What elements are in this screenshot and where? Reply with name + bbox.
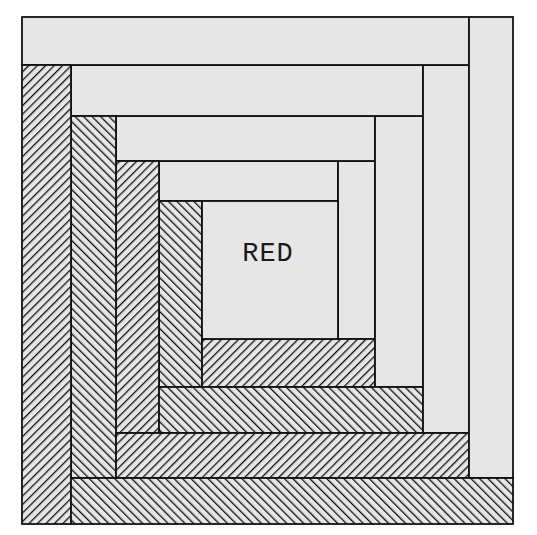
log-light-top-1 — [159, 161, 338, 201]
center-square — [202, 201, 338, 339]
center-label: RED — [242, 239, 294, 269]
log-dark-bottom-2 — [159, 387, 423, 433]
log-dark-left-1 — [159, 201, 202, 387]
log-dark-bottom-1 — [202, 339, 375, 387]
log-light-right-4 — [469, 17, 513, 478]
log-dark-left-4 — [22, 65, 71, 524]
log-light-right-3 — [423, 65, 469, 433]
log-light-top-4 — [22, 17, 469, 65]
log-light-top-3 — [71, 65, 423, 116]
log-light-top-2 — [116, 116, 375, 161]
log-dark-bottom-4 — [71, 478, 513, 524]
log-light-right-1 — [338, 161, 375, 339]
log-dark-bottom-3 — [116, 433, 469, 478]
log-light-right-2 — [375, 116, 423, 387]
log-dark-left-2 — [116, 161, 159, 433]
log-cabin-quilt-block: RED — [0, 0, 537, 535]
log-dark-left-3 — [71, 116, 116, 478]
